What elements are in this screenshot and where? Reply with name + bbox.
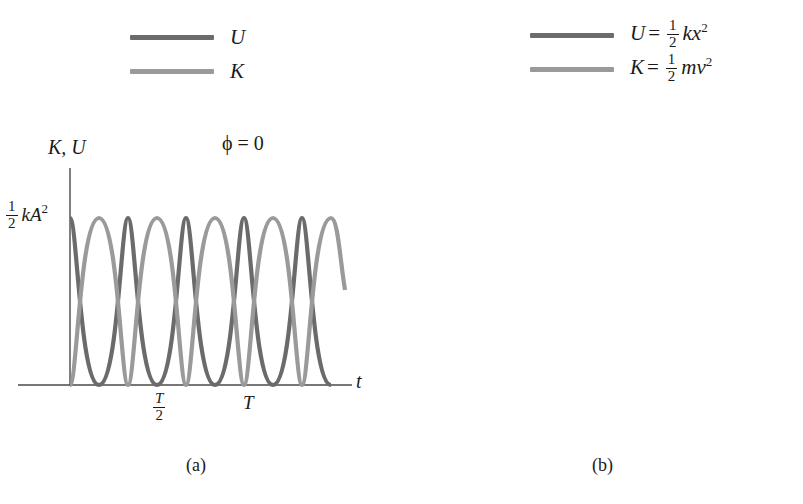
legend-u-numerator: 1 bbox=[667, 18, 679, 34]
legend-panel-b: U=12kx2 K=12mv2 bbox=[530, 18, 712, 86]
legend-swatch-k-b bbox=[530, 67, 614, 72]
y-tick-expression: kA bbox=[22, 204, 42, 225]
legend-u-fraction: 12 bbox=[667, 18, 679, 51]
legend-k-fraction: 12 bbox=[666, 52, 678, 85]
legend-panel-a: U K bbox=[130, 20, 245, 88]
legend-label-u: U bbox=[230, 27, 245, 48]
caption-a: (a) bbox=[186, 455, 206, 476]
caption-b-text: (b) bbox=[592, 455, 613, 475]
legend-item-u-formula: U=12kx2 bbox=[530, 18, 712, 52]
legend-label-k-formula: K=12mv2 bbox=[630, 53, 712, 86]
legend-label-k: K bbox=[230, 61, 244, 82]
x-tick-fraction-half-period: T 2 bbox=[153, 391, 165, 424]
plot-a: K, U t ϕ = 0 1 2 kA2 T 2 bbox=[0, 120, 401, 420]
y-tick-fraction: 1 2 bbox=[6, 199, 18, 232]
x-tick-label-half-period: T 2 bbox=[149, 392, 169, 425]
y-tick-denominator: 2 bbox=[6, 215, 18, 232]
legend-item-k-formula: K=12mv2 bbox=[530, 52, 712, 86]
legend-item-u: U bbox=[130, 20, 245, 54]
legend-k-exponent: 2 bbox=[706, 54, 713, 69]
phase-annotation-text: ϕ = 0 bbox=[222, 132, 264, 154]
x-axis-label-a-text: t bbox=[356, 370, 362, 392]
y-axis-label-a-text: K, U bbox=[48, 136, 86, 158]
legend-u-symbol: U bbox=[630, 21, 645, 45]
y-tick-label-a: 1 2 kA2 bbox=[2, 200, 48, 233]
legend-swatch-u bbox=[130, 35, 214, 40]
caption-b: (b) bbox=[592, 455, 613, 476]
plot-a-canvas bbox=[0, 120, 401, 420]
x-axis-label-a: t bbox=[356, 370, 362, 393]
x-tick-half-period-denominator: 2 bbox=[153, 407, 165, 424]
legend-u-expression: kx bbox=[683, 21, 702, 45]
legend-k-numerator: 1 bbox=[666, 52, 678, 68]
x-tick-half-period-numerator: T bbox=[153, 391, 165, 407]
y-axis-label-a: K, U bbox=[48, 136, 86, 159]
legend-k-denominator: 2 bbox=[666, 68, 678, 85]
legend-item-k: K bbox=[130, 54, 245, 88]
legend-swatch-k bbox=[130, 69, 214, 74]
physics-figure-shm-energy: U K K, U t bbox=[0, 0, 803, 504]
legend-k-expression: mv bbox=[681, 55, 706, 79]
caption-a-text: (a) bbox=[186, 455, 206, 475]
phase-annotation: ϕ = 0 bbox=[222, 132, 264, 155]
panel-b: U=12kx2 K=12mv2 bbox=[402, 0, 803, 504]
y-tick-exponent: 2 bbox=[42, 201, 49, 216]
legend-label-u-formula: U=12kx2 bbox=[630, 19, 708, 52]
x-tick-label-period: T bbox=[243, 392, 254, 414]
legend-u-exponent: 2 bbox=[701, 20, 708, 35]
legend-swatch-u-b bbox=[530, 33, 614, 38]
y-tick-numerator: 1 bbox=[6, 199, 18, 215]
legend-u-denominator: 2 bbox=[667, 34, 679, 51]
panel-a: U K K, U t bbox=[0, 0, 401, 504]
x-tick-period-text: T bbox=[243, 392, 254, 413]
legend-k-symbol: K bbox=[630, 55, 644, 79]
